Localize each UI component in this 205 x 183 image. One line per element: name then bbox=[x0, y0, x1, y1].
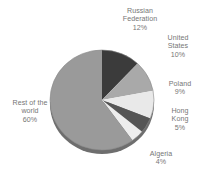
pie-label-poland-value: 9% bbox=[159, 88, 201, 96]
pie-label-rest-of-the-world-line1: Rest of the bbox=[3, 99, 57, 107]
pie-label-hong-kong-value: 5% bbox=[159, 124, 201, 132]
pie-label-rest-of-the-world: Rest of the world 60% bbox=[3, 99, 57, 124]
pie-label-united-states: United States 10% bbox=[155, 34, 201, 59]
pie-label-hong-kong-line1: Hong bbox=[159, 107, 201, 115]
pie-label-russian-federation-line2: Federation bbox=[111, 15, 169, 23]
pie-label-hong-kong: Hong Kong 5% bbox=[159, 107, 201, 132]
pie-label-algeria: Algeria 4% bbox=[139, 150, 183, 167]
pie-label-united-states-line1: United bbox=[155, 34, 201, 42]
pie-label-russian-federation: Russian Federation 12% bbox=[111, 7, 169, 32]
pie-label-united-states-line2: States bbox=[155, 42, 201, 50]
pie-slices bbox=[50, 50, 154, 150]
pie-label-united-states-value: 10% bbox=[155, 51, 201, 59]
pie-label-poland-line1: Poland bbox=[159, 80, 201, 88]
pie-label-russian-federation-line1: Russian bbox=[111, 7, 169, 15]
pie-label-rest-of-the-world-line2: world bbox=[3, 107, 57, 115]
pie-label-poland: Poland 9% bbox=[159, 80, 201, 97]
pie-label-hong-kong-line2: Kong bbox=[159, 115, 201, 123]
pie-label-rest-of-the-world-value: 60% bbox=[3, 116, 57, 124]
pie-chart: Russian Federation 12% United States 10%… bbox=[0, 0, 205, 183]
pie-label-russian-federation-value: 12% bbox=[111, 24, 169, 32]
pie-label-algeria-line1: Algeria bbox=[139, 150, 183, 158]
pie-label-algeria-value: 4% bbox=[139, 158, 183, 166]
